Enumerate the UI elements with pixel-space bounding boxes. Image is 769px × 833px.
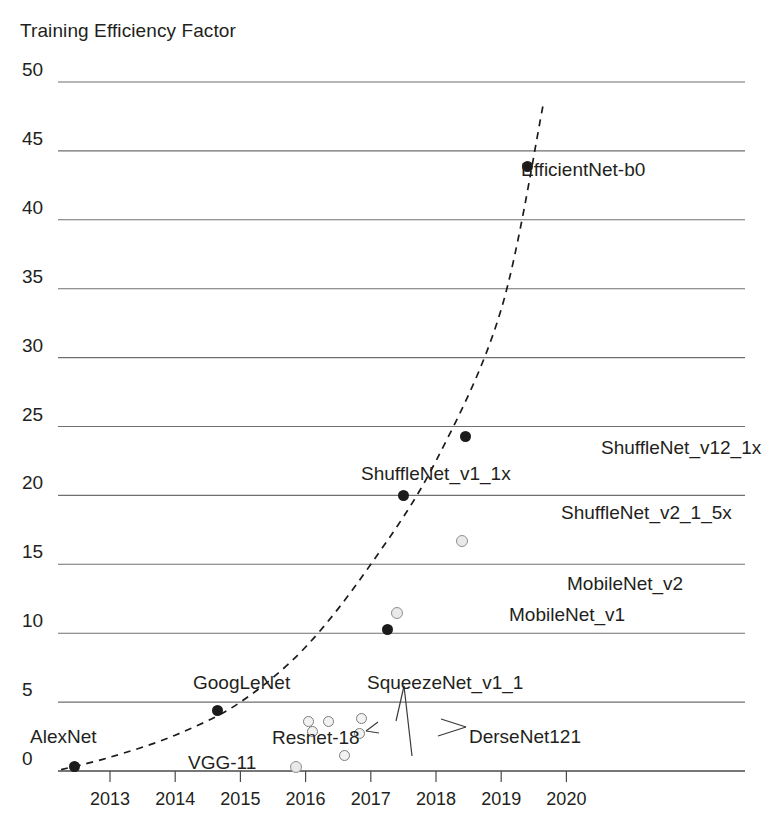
data-point-shufflenet-v2-1-5x[interactable] (456, 535, 468, 547)
y-axis-tick-label: 35 (22, 266, 43, 288)
label-vgg-11: VGG-11 (188, 753, 256, 772)
x-axis-tick-label: 2013 (82, 789, 138, 810)
y-axis-tick-label: 20 (22, 472, 43, 494)
chart-container: Training Efficiency Factor 5045403530252… (0, 0, 769, 833)
data-point-dersenet121-a[interactable] (356, 713, 367, 724)
label-mobilenet-v2: MobileNet_v2 (567, 574, 683, 593)
data-point-squeezenet-v1-1-a[interactable] (323, 716, 334, 727)
label-resnet-18: Resnet-18 (272, 728, 360, 747)
trend-line-dashed (61, 103, 543, 770)
data-point-shufflenet-v12-1x[interactable] (460, 431, 471, 442)
label-mobilenet-v1: MobileNet_v1 (509, 605, 625, 624)
plot-area (0, 0, 769, 833)
data-point-alexnet[interactable] (69, 761, 80, 772)
label-shufflenet-v2-1-5x: ShuffleNet_v2_1_5x (561, 503, 732, 522)
x-axis-tick-label: 2016 (278, 789, 334, 810)
y-axis-tick-label: 25 (22, 404, 43, 426)
y-axis-tick-label: 5 (22, 679, 33, 701)
x-axis-tick-label: 2019 (473, 789, 529, 810)
data-point-vgg-11[interactable] (290, 761, 302, 773)
leader-lines (366, 686, 466, 756)
x-axis-tick-label: 2018 (408, 789, 464, 810)
label-efficientnet-b0: EfficientNet-b0 (521, 160, 645, 179)
y-axis-tick-label: 45 (22, 128, 43, 150)
x-axis-ticks (110, 771, 566, 782)
y-axis-tick-label: 40 (22, 197, 43, 219)
label-alexnet: AlexNet (30, 727, 97, 746)
data-point-shufflenet-v1-1x[interactable] (398, 490, 409, 501)
label-shufflenet-v12-1x: ShuffleNet_v12_1x (601, 438, 761, 457)
x-axis-tick-label: 2014 (147, 789, 203, 810)
y-axis-tick-label: 50 (22, 59, 43, 81)
x-axis-tick-label: 2020 (538, 789, 594, 810)
x-axis-tick-label: 2015 (212, 789, 268, 810)
label-squeezenet-v1-1: SqueezeNet_v1_1 (367, 673, 523, 692)
y-axis-tick-label: 0 (22, 748, 33, 770)
gridlines (58, 82, 745, 771)
data-point-mobilenet-v2[interactable] (391, 607, 403, 619)
label-dersenet121: DerseNet121 (469, 727, 581, 746)
label-googlenet: GoogLeNet (193, 673, 290, 692)
label-shufflenet-v1-1x: ShuffleNet_v1_1x (361, 464, 511, 483)
data-point-googlenet[interactable] (212, 705, 223, 716)
data-point-mobilenet-v1[interactable] (382, 624, 393, 635)
y-axis-tick-label: 30 (22, 335, 43, 357)
y-axis-tick-label: 10 (22, 610, 43, 632)
y-axis-tick-label: 15 (22, 541, 43, 563)
x-axis-tick-label: 2017 (343, 789, 399, 810)
